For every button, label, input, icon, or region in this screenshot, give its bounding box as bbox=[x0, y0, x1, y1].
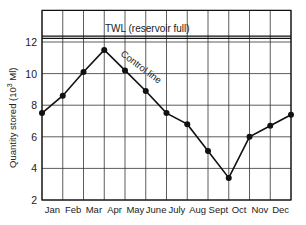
y-tick-label: 4 bbox=[31, 162, 37, 174]
y-axis-label-tail: Ml) bbox=[7, 67, 18, 83]
reservoir-storage-chart: TWL (reservoir full) Control line 246810… bbox=[0, 0, 306, 225]
data-point-marker bbox=[184, 121, 190, 127]
x-tick-label: Feb bbox=[65, 204, 81, 215]
x-tick-label: Sept bbox=[209, 204, 229, 215]
x-tick-label: Dec bbox=[272, 204, 289, 215]
y-tick-label: 6 bbox=[31, 131, 37, 143]
x-tick-label: Jan bbox=[45, 204, 60, 215]
y-tick-label: 2 bbox=[31, 194, 37, 206]
x-axis-labels: JanFebMarAprMayJuneJulyAugSeptOctNovDec bbox=[45, 204, 290, 215]
x-tick-label: May bbox=[126, 204, 144, 215]
x-tick-label: Nov bbox=[251, 204, 268, 215]
data-point-marker bbox=[164, 110, 170, 116]
control-line-label: Control line bbox=[119, 48, 164, 86]
y-axis-label-main: Quantity stored (10 bbox=[7, 87, 18, 168]
y-axis-ticks: 24681012 bbox=[25, 36, 37, 206]
data-point-marker bbox=[60, 93, 66, 99]
data-point-marker bbox=[247, 134, 253, 140]
x-tick-label: Aug bbox=[189, 204, 206, 215]
y-axis-label: Quantity stored (103 Ml) bbox=[6, 67, 18, 168]
y-tick-label: 10 bbox=[25, 68, 37, 80]
y-tick-label: 8 bbox=[31, 99, 37, 111]
data-point-marker bbox=[122, 67, 128, 73]
data-point-marker bbox=[288, 112, 294, 118]
x-tick-label: Apr bbox=[107, 204, 122, 215]
x-tick-label: Oct bbox=[232, 204, 247, 215]
data-point-marker bbox=[267, 123, 273, 129]
x-tick-label: Mar bbox=[86, 204, 102, 215]
data-point-marker bbox=[205, 148, 211, 154]
twl-label: TWL (reservoir full) bbox=[105, 23, 190, 34]
x-tick-label: June bbox=[146, 204, 167, 215]
data-point-marker bbox=[39, 110, 45, 116]
data-point-marker bbox=[81, 69, 87, 75]
data-point-marker bbox=[143, 88, 149, 94]
data-point-marker bbox=[101, 47, 107, 53]
data-point-marker bbox=[226, 175, 232, 181]
x-tick-label: July bbox=[168, 204, 185, 215]
y-tick-label: 12 bbox=[25, 36, 37, 48]
